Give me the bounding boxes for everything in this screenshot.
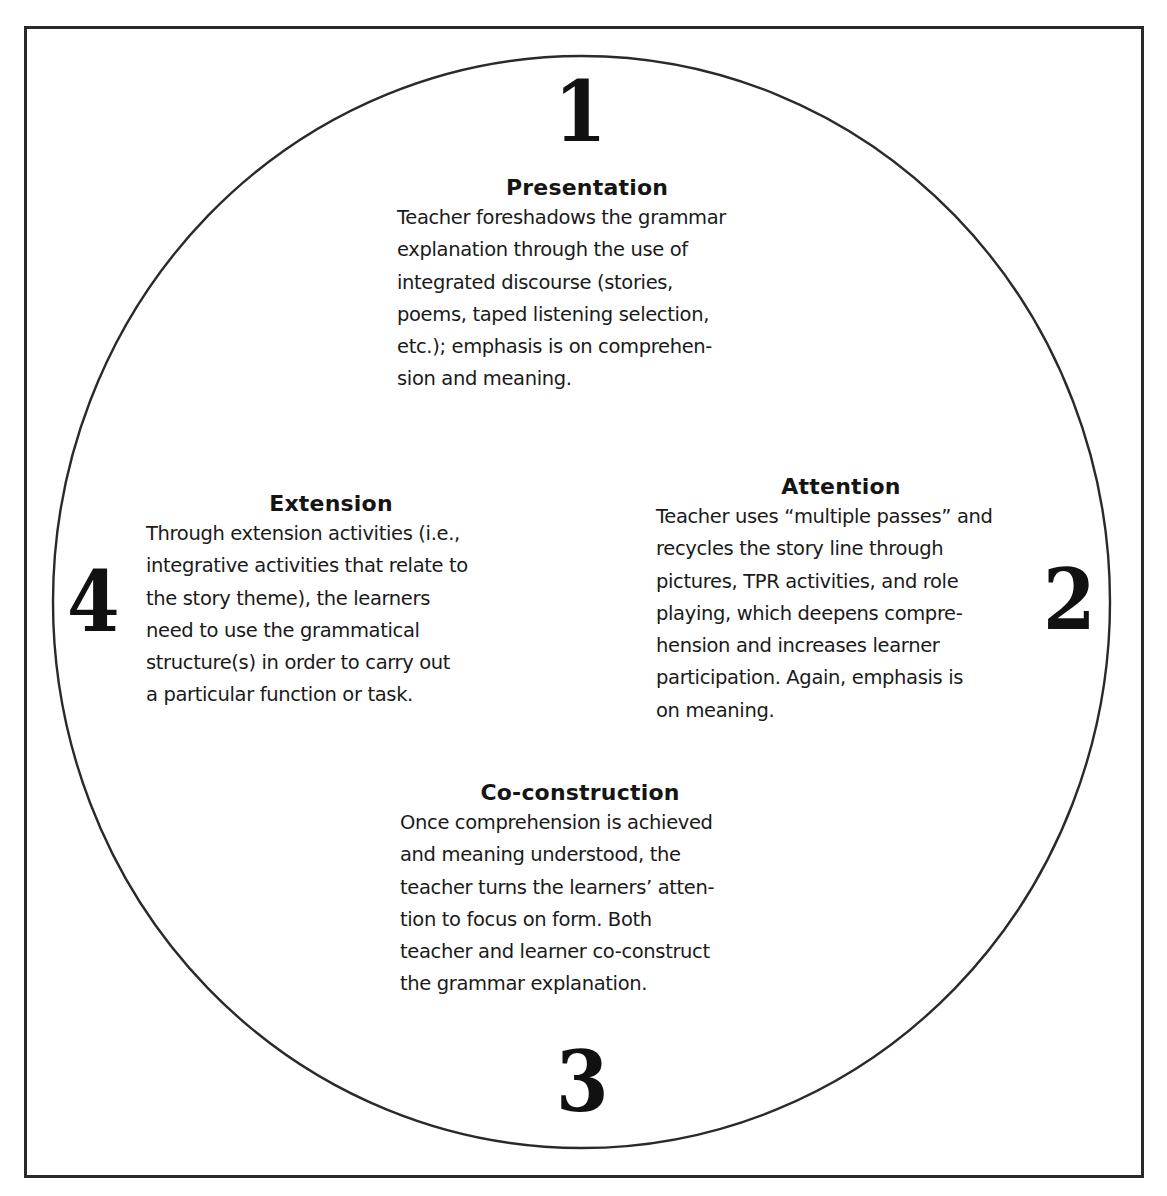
stage-number-3: 3: [556, 1040, 609, 1124]
description-line: teacher and learner co-construct: [400, 936, 760, 968]
description-line: a particular function or task.: [146, 679, 516, 711]
stage-extension: Extension Through extension activities (…: [146, 490, 516, 712]
description-line: need to use the grammatical: [146, 615, 516, 647]
stage-number-2: 2: [1043, 558, 1096, 642]
stage-co-construction: Co-construction Once comprehension is ac…: [400, 779, 760, 1001]
description-line: sion and meaning.: [397, 363, 777, 395]
description-line: integrative activities that relate to: [146, 550, 516, 582]
description-line: hension and increases learner: [656, 630, 1026, 662]
description-line: tion to focus on form. Both: [400, 904, 760, 936]
description-line: and meaning understood, the: [400, 839, 760, 871]
description-line: Teacher foreshadows the grammar: [397, 202, 777, 234]
stage-description: Through extension activities (i.e., inte…: [146, 518, 516, 712]
stage-title: Extension: [146, 490, 516, 518]
description-line: the grammar explanation.: [400, 968, 760, 1000]
description-line: recycles the story line through: [656, 533, 1026, 565]
description-line: poems, taped listening selection,: [397, 299, 777, 331]
stage-number-4: 4: [67, 560, 120, 644]
description-line: integrated discourse (stories,: [397, 267, 777, 299]
stage-description: Once comprehension is achieved and meani…: [400, 807, 760, 1001]
description-line: Through extension activities (i.e.,: [146, 518, 516, 550]
description-line: playing, which deepens compre-: [656, 598, 1026, 630]
description-line: on meaning.: [656, 695, 1026, 727]
stage-title: Presentation: [397, 174, 777, 202]
description-line: structure(s) in order to carry out: [146, 647, 516, 679]
stage-description: Teacher uses “multiple passes” and recyc…: [656, 501, 1026, 727]
stage-title: Co-construction: [400, 779, 760, 807]
description-line: teacher turns the learners’ atten-: [400, 872, 760, 904]
description-line: explanation through the use of: [397, 234, 777, 266]
stage-title: Attention: [656, 473, 1026, 501]
stage-attention: Attention Teacher uses “multiple passes”…: [656, 473, 1026, 727]
description-line: etc.); emphasis is on comprehen-: [397, 331, 777, 363]
description-line: the story theme), the learners: [146, 583, 516, 615]
description-line: Teacher uses “multiple passes” and: [656, 501, 1026, 533]
description-line: Once comprehension is achieved: [400, 807, 760, 839]
description-line: participation. Again, emphasis is: [656, 662, 1026, 694]
description-line: pictures, TPR activities, and role: [656, 566, 1026, 598]
stage-description: Teacher foreshadows the grammar explanat…: [397, 202, 777, 396]
stage-presentation: Presentation Teacher foreshadows the gra…: [397, 174, 777, 396]
stage-number-1: 1: [554, 70, 607, 154]
